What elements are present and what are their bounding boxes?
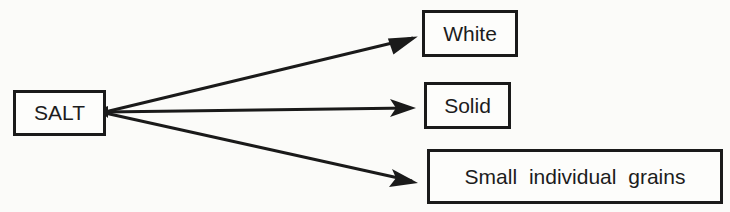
arrow-salt-to-grains bbox=[105, 113, 418, 187]
node-small-individual-grains: Small individual grains bbox=[427, 149, 723, 204]
node-white-label: White bbox=[443, 22, 497, 46]
arrow-salt-to-white bbox=[105, 37, 418, 112]
node-white: White bbox=[422, 10, 518, 57]
node-grains-label: Small individual grains bbox=[465, 165, 686, 189]
node-salt-label: SALT bbox=[34, 101, 85, 125]
node-salt: SALT bbox=[13, 90, 106, 136]
salt-properties-diagram: SALT White Solid Small individual grains bbox=[0, 0, 730, 212]
node-solid-label: Solid bbox=[444, 94, 491, 118]
node-solid: Solid bbox=[424, 82, 511, 129]
